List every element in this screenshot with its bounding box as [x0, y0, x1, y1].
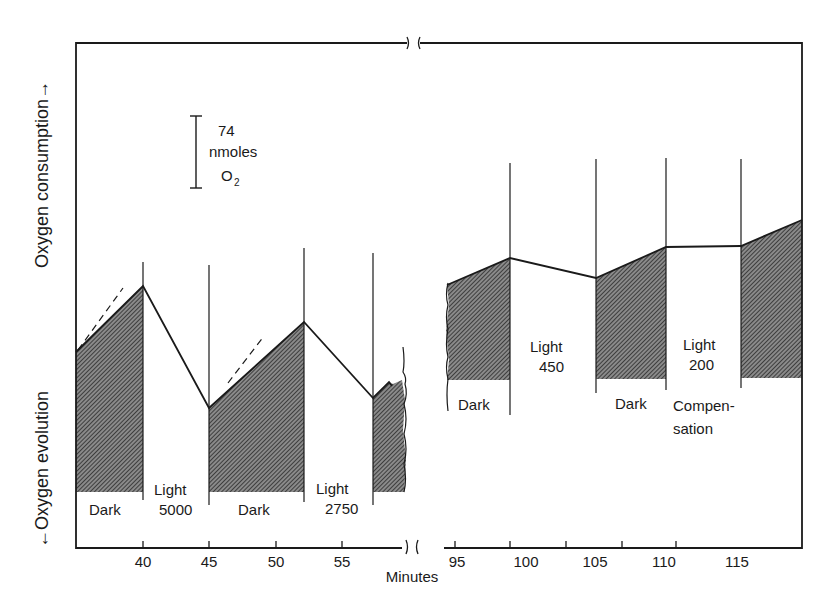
period-label-dark-1: Dark — [89, 501, 121, 518]
tick-label: 50 — [268, 553, 285, 570]
tick-label: 100 — [513, 553, 538, 570]
x-axis-label: Minutes — [386, 568, 439, 585]
chart-frame — [76, 37, 802, 554]
compensation-label-1: Compen- — [673, 397, 735, 414]
period-intensity-200: 200 — [689, 356, 714, 373]
period-label-dark-2: Dark — [238, 501, 270, 518]
y-axis-label-consumption: Oxygen consumption→ — [32, 81, 52, 268]
scale-bar — [190, 116, 202, 188]
scale-species: O — [221, 167, 233, 184]
period-intensity-5000: 5000 — [159, 501, 192, 518]
tick-label: 55 — [334, 553, 351, 570]
period-label-dark-3: Dark — [458, 396, 490, 413]
period-label-light-1: Light — [154, 481, 187, 498]
x-axis-ticks — [143, 541, 676, 548]
tick-label: 40 — [135, 553, 152, 570]
oxygen-chart: 74 nmoles O 2 Dark Light 5000 Dark Light… — [0, 0, 831, 596]
tick-label: 45 — [201, 553, 218, 570]
scale-unit: nmoles — [209, 143, 257, 160]
tick-label: 115 — [725, 553, 749, 570]
tick-label: 95 — [449, 553, 466, 570]
period-label-light-3: Light — [530, 338, 563, 355]
scale-subscript: 2 — [234, 177, 240, 188]
period-label-light-4: Light — [683, 336, 716, 353]
scale-value: 74 — [218, 122, 235, 139]
tick-label: 105 — [582, 553, 607, 570]
period-intensity-2750: 2750 — [325, 500, 358, 517]
oxygen-trace — [76, 220, 802, 408]
period-label-dark-4: Dark — [615, 395, 647, 412]
y-axis-label-evolution: ←Oxygen evolution — [32, 391, 52, 548]
tick-label: 110 — [652, 553, 676, 570]
compensation-label-2: sation — [673, 420, 713, 437]
trace-break-edges — [403, 283, 448, 492]
period-label-light-2: Light — [316, 480, 349, 497]
period-intensity-450: 450 — [539, 358, 564, 375]
